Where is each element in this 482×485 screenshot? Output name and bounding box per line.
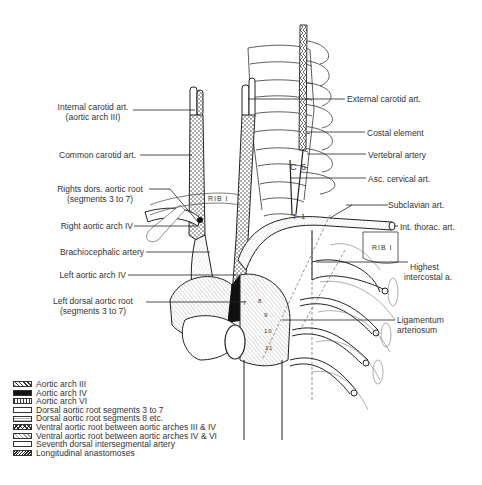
label-highest-intercostal: Highest intercostal a. — [404, 262, 480, 282]
swatch-plain-icon — [13, 407, 32, 413]
tag-rib1-left: RIB I — [208, 195, 229, 202]
swatch-dots-icon — [13, 381, 32, 387]
label-vertebral-artery: Vertebral artery — [368, 150, 426, 160]
label-external-carotid: External carotid art. — [347, 94, 421, 104]
left-common-carotid — [232, 115, 255, 295]
tag-seg10: 10 — [264, 328, 273, 334]
swatch-cross-icon — [13, 424, 32, 430]
legend: Aortic arch III Aortic arch IV Aortic ar… — [13, 380, 217, 457]
label-asc-cervical: Asc. cervical art. — [368, 174, 430, 184]
swatch-black-icon — [13, 390, 32, 396]
swatch-vbars-icon — [13, 398, 32, 404]
swatch-hatch-icon — [13, 450, 32, 456]
label-left-aortic-arch-iv: Left aortic arch IV — [40, 270, 126, 280]
vertebral-artery-shape — [299, 25, 307, 150]
swatch-light-icon — [13, 433, 32, 439]
label-right-dorsal-aortic-root: Rights dors. aortic root (segments 3 to … — [50, 184, 150, 204]
leader-lines-left — [128, 110, 245, 302]
swatch-fine-icon — [13, 416, 32, 422]
label-costal-element: Costal element — [367, 128, 424, 138]
label-ligamentum-arteriosum: Ligamentum arteriosum — [397, 315, 444, 335]
tag-c6: C 6 — [290, 162, 307, 172]
label-brachiocephalic: Brachiocephalic artery — [40, 247, 144, 257]
tag-seg7: 7 — [243, 300, 247, 306]
ribs-outline — [312, 244, 398, 410]
label-int-thoracic: Int. thorac. art. — [400, 222, 455, 232]
carotid-stubs — [190, 78, 255, 118]
pulmonary-opening — [225, 325, 245, 359]
label-internal-carotid: Internal carotid art. (aortic arch III) — [52, 102, 134, 122]
tag-rib1-right: RIB I — [372, 244, 393, 251]
tag-seg11: 11 — [265, 345, 273, 351]
label-subclavian: Subclavian art. — [388, 200, 444, 210]
legend-item: Longitudinal anastomoses — [13, 449, 217, 458]
tag-seg9: 9 — [264, 312, 268, 318]
label-left-dorsal-aortic-root: Left dorsal aortic root (segments 3 to 7… — [40, 296, 146, 316]
label-common-carotid: Common carotid art. — [40, 150, 136, 160]
tag-t1: T 1 — [292, 212, 306, 221]
swatch-plain-icon — [13, 441, 32, 447]
label-right-aortic-arch-iv: Right aortic arch IV — [40, 221, 133, 231]
tag-seg8: 8 — [258, 298, 262, 304]
